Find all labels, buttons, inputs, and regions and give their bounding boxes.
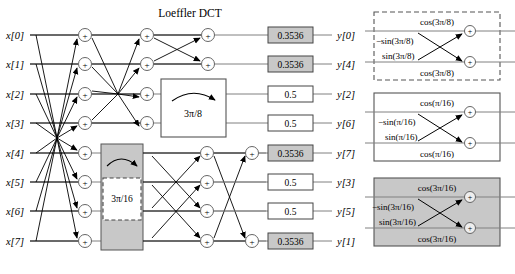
scale-value: 0.3536 [277, 31, 303, 41]
scale-box-y0[interactable]: 0.3536 [268, 27, 313, 43]
adder-symbol: + [82, 237, 87, 247]
figure-title: Loeffler DCT [158, 7, 221, 19]
output-label-y1: y[1] [336, 236, 355, 247]
adder-symbol: + [82, 178, 87, 188]
stage2-upper-adders: + + + + [141, 29, 154, 130]
legend-top-coeff: cos(3π/8) [420, 17, 454, 27]
input-label-x5: x[5] [5, 177, 24, 188]
legend-lower-cross-coeff: sin(3π/16) [379, 217, 416, 227]
stage3-upper-cross [154, 35, 201, 64]
adder-symbol: + [468, 108, 473, 117]
adder-symbol: + [468, 27, 473, 36]
legend-upper-cross-coeff: −sin(3π/16) [372, 202, 414, 212]
adder-node: + [202, 58, 215, 71]
stage4-lower-cross [214, 153, 246, 241]
rotation-label: 3π/8 [184, 108, 202, 119]
legend-lower-cross-coeff: sin(3π/8) [382, 51, 415, 61]
adder-symbol: + [205, 60, 210, 70]
adder-node: + [202, 29, 215, 42]
adder-node: + [246, 235, 259, 248]
adder-symbol: + [144, 31, 149, 41]
adder-symbol: + [204, 237, 209, 247]
input-label-x0: x[0] [5, 30, 24, 41]
adder-node: + [141, 117, 154, 130]
adder-symbol: + [144, 119, 149, 129]
adder-symbol: + [204, 178, 209, 188]
adder-symbol: + [144, 60, 149, 70]
input-label-x6: x[6] [5, 206, 24, 217]
scale-value: 0.5 [285, 178, 297, 188]
adder-node: + [79, 235, 92, 248]
adder-node: + [141, 29, 154, 42]
scale-value: 0.3536 [277, 237, 303, 247]
legend-rot-pi-16: + + cos(π/16) −sin(π/16) sin(π/16) cos(π… [365, 93, 515, 161]
scale-box-y2[interactable]: 0.5 [268, 86, 313, 102]
rotation-label: 3π/16 [111, 194, 133, 204]
stage1-butterfly-fan [30, 35, 78, 241]
scale-box-y7[interactable]: 0.3536 [268, 145, 313, 161]
adder-node: + [201, 147, 214, 160]
adder-symbol: + [204, 149, 209, 159]
figure-canvas: Loeffler DCT x[0] x[1] x[2] x[3] x[4] x[… [0, 0, 515, 274]
adder-symbol: + [249, 149, 254, 159]
adder-symbol: + [204, 207, 209, 217]
output-row: 0.5 y[3] [214, 174, 355, 190]
adder-node: + [79, 58, 92, 71]
legend-bottom-coeff: cos(π/16) [420, 149, 454, 159]
adder-symbol: + [82, 149, 87, 159]
input-label-x3: x[3] [5, 118, 24, 129]
adder-symbol: + [468, 224, 473, 233]
output-label-y6: y[6] [336, 118, 355, 129]
adder-symbol: + [82, 31, 87, 41]
input-label-x1: x[1] [5, 59, 24, 70]
stage2-lower-butterfly [143, 153, 200, 241]
stage2-upper-butterfly [92, 35, 140, 126]
adder-node: + [141, 58, 154, 71]
adder-node: + [79, 29, 92, 42]
adder-node: + [141, 88, 154, 101]
rotation-block-3pi-8[interactable]: 3π/8 [161, 79, 226, 137]
stage3-upper-adders: + + [202, 29, 215, 71]
adder-symbol: + [249, 237, 254, 247]
adder-symbol: + [82, 90, 87, 100]
input-label-x4: x[4] [5, 148, 24, 159]
stage4-lower-adders: + + [246, 147, 259, 248]
legend-bottom-coeff: cos(3π/8) [420, 68, 454, 78]
adder-node: + [79, 88, 92, 101]
scale-box-y6[interactable]: 0.5 [268, 115, 313, 131]
output-row: 0.3536 y[0] [266, 27, 355, 43]
adder-symbol: + [468, 139, 473, 148]
rotation-block-3pi-16[interactable]: 3π/16 [101, 144, 143, 250]
stage1-adders: + + + + + + + + [79, 29, 92, 248]
input-label-x7: x[7] [5, 236, 24, 247]
adder-symbol: + [468, 193, 473, 202]
legend-rot-3pi-16: + + cos(3π/16) −sin(3π/16) sin(3π/16) co… [365, 178, 515, 246]
legend-top-coeff: cos(3π/16) [418, 183, 457, 193]
output-label-y0: y[0] [336, 30, 355, 41]
legend-upper-cross-coeff: −sin(3π/8) [376, 36, 414, 46]
scale-value: 0.3536 [277, 60, 303, 70]
legend-lower-cross-coeff: sin(π/16) [385, 132, 418, 142]
adder-node: + [201, 176, 214, 189]
output-row: 0.3536 y[7] [259, 145, 355, 161]
output-label-y3: y[3] [336, 177, 355, 188]
adder-symbol: + [82, 119, 87, 129]
output-row: 0.3536 y[4] [266, 56, 355, 72]
legend-top-coeff: cos(π/16) [420, 98, 454, 108]
output-row: 0.5 y[2] [266, 86, 355, 102]
adder-node: + [79, 147, 92, 160]
scale-box-y1[interactable]: 0.3536 [268, 233, 313, 249]
adder-symbol: + [205, 31, 210, 41]
scale-value: 0.5 [285, 119, 297, 129]
scale-value: 0.5 [285, 90, 297, 100]
adder-node: + [201, 235, 214, 248]
scale-value: 0.3536 [277, 149, 303, 159]
scale-box-y3[interactable]: 0.5 [268, 174, 313, 190]
adder-symbol: + [82, 60, 87, 70]
scale-box-y4[interactable]: 0.3536 [268, 56, 313, 72]
stage2-lower-adders: + + + + [201, 147, 214, 248]
scale-box-y5[interactable]: 0.5 [268, 203, 313, 219]
output-label-y5: y[5] [336, 206, 355, 217]
legend-upper-cross-coeff: −sin(π/16) [378, 117, 416, 127]
adder-node: + [79, 176, 92, 189]
